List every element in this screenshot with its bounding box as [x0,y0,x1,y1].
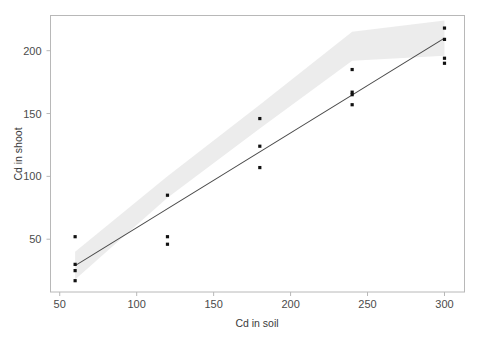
data-point [258,145,261,148]
data-point [443,57,446,60]
y-tick-label: 100 [23,170,41,182]
data-point [74,279,77,282]
y-axis-title: Cd in shoot [12,127,24,180]
data-point [351,68,354,71]
data-point [74,269,77,272]
data-point [74,235,77,238]
data-point [258,166,261,169]
data-point [443,62,446,65]
x-tick-label: 50 [54,298,66,310]
scatter-plot: 50100150200250300 50100150200 Cd in soil… [0,0,488,337]
data-point [443,38,446,41]
y-tick-label: 200 [23,45,41,57]
y-tick-label: 150 [23,108,41,120]
data-point [166,194,169,197]
data-point [351,93,354,96]
x-tick-label: 200 [281,298,299,310]
data-point [351,103,354,106]
x-tick-label: 250 [358,298,376,310]
data-point [74,263,77,266]
x-axis-title: Cd in soil [235,317,278,329]
chart-figure: 50100150200250300 50100150200 Cd in soil… [0,0,488,337]
data-point [258,117,261,120]
y-tick-label: 50 [29,233,41,245]
data-point [166,243,169,246]
x-tick-label: 150 [204,298,222,310]
x-tick-label: 300 [435,298,453,310]
data-point [443,26,446,29]
x-tick-label: 100 [128,298,146,310]
data-point [166,235,169,238]
